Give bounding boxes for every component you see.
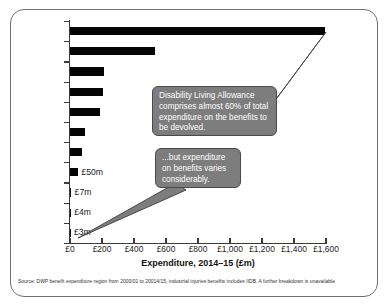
callout-pointer-varies [78,183,186,238]
bar-annotation-label: £4m [74,208,91,217]
x-tick [133,238,134,243]
y-tick [64,61,69,62]
x-tick-label: £1,400 [281,245,307,253]
expenditure-chart-figure: £50m£7m£4m£3m £0£200£400£600£800£1,000£1… [0,0,388,308]
y-tick [64,41,69,42]
bar [70,67,104,75]
x-tick-label: £400 [125,245,144,253]
bar-annotation-label: £7m [75,188,92,197]
x-tick-label: £1,200 [249,245,275,253]
bar-annotation-label: £3m [74,228,91,237]
x-tick-label: £1,000 [217,245,243,253]
y-tick [64,142,69,143]
bar [70,27,325,35]
x-tick [325,238,326,243]
x-tick [229,238,230,243]
x-tick-label: £0 [65,245,74,253]
y-tick [64,182,69,183]
x-tick-label: £800 [189,245,208,253]
x-tick-label: £600 [157,245,176,253]
y-tick [64,122,69,123]
source-note: Source: DWP benefit expenditure region f… [18,279,374,284]
plot-area: £50m£7m£4m£3m £0£200£400£600£800£1,000£1… [0,0,388,308]
bar [70,128,85,136]
callout-varies: ...but expenditure on benefits varies co… [155,148,241,188]
x-tick-label: £200 [93,245,112,253]
y-tick [64,203,69,204]
bar [70,148,82,156]
x-tick [293,238,294,243]
bar [70,209,71,217]
x-axis-title: Expenditure, 2014–15 (£m) [69,259,327,268]
x-tick [197,238,198,243]
y-tick [64,82,69,83]
bar [70,47,155,55]
x-tick [101,238,102,243]
bar [70,168,78,176]
x-tick [165,238,166,243]
bar [70,229,71,237]
x-tick-label: £1,600 [313,245,339,253]
callout-dla: Disability Living Allowance comprises al… [152,86,277,136]
y-tick [64,21,69,22]
y-tick [64,223,69,224]
y-tick [64,162,69,163]
bar-annotation-label: £50m [82,168,104,177]
x-tick [261,238,262,243]
bar [70,188,71,196]
y-tick [64,102,69,103]
x-tick [69,238,70,243]
bar [70,88,103,96]
bar [70,108,100,116]
